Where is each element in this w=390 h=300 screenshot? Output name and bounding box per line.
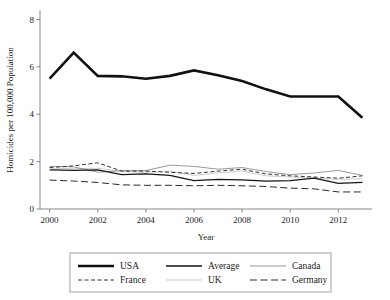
legend-border bbox=[70, 253, 331, 292]
x-tick-label: 2008 bbox=[233, 215, 252, 225]
y-tick-label: 4 bbox=[30, 109, 35, 119]
y-tick-label: 0 bbox=[30, 204, 35, 214]
y-tick-label: 8 bbox=[30, 15, 35, 25]
legend-label-germany: Germany bbox=[292, 275, 328, 285]
y-axis-title: Homicides per 100,000 Population bbox=[5, 47, 15, 173]
legend-label-average: Average bbox=[208, 261, 239, 271]
x-tick-label: 2010 bbox=[281, 215, 300, 225]
x-tick-label: 2002 bbox=[89, 215, 107, 225]
chart-legend: USAAverageCanadaFranceUKGermany bbox=[70, 253, 331, 292]
series-line-germany bbox=[50, 180, 363, 192]
chart-root: 02468 2000200220042006200820102012 Homic… bbox=[0, 0, 390, 300]
y-axis-ticks: 02468 bbox=[30, 15, 41, 215]
x-axis-ticks: 2000200220042006200820102012 bbox=[41, 209, 348, 225]
x-tick-label: 2012 bbox=[329, 215, 347, 225]
legend-item-usa[interactable]: USA bbox=[78, 261, 139, 271]
data-series bbox=[50, 53, 363, 192]
line-chart: 02468 2000200220042006200820102012 Homic… bbox=[0, 0, 390, 300]
legend-label-uk: UK bbox=[208, 275, 222, 285]
legend-item-germany[interactable]: Germany bbox=[250, 275, 328, 285]
x-axis-title: Year bbox=[198, 232, 215, 242]
y-tick-label: 6 bbox=[30, 62, 35, 72]
legend-item-canada[interactable]: Canada bbox=[250, 261, 321, 271]
legend-item-average[interactable]: Average bbox=[166, 261, 239, 271]
legend-item-france[interactable]: France bbox=[78, 275, 146, 285]
legend-label-canada: Canada bbox=[292, 261, 321, 271]
axes bbox=[40, 10, 372, 209]
y-tick-label: 2 bbox=[30, 157, 35, 167]
x-tick-label: 2006 bbox=[185, 215, 204, 225]
legend-item-uk[interactable]: UK bbox=[166, 275, 222, 285]
x-tick-label: 2000 bbox=[41, 215, 60, 225]
legend-label-usa: USA bbox=[120, 261, 139, 271]
plot-area: 02468 2000200220042006200820102012 bbox=[30, 10, 373, 225]
x-tick-label: 2004 bbox=[137, 215, 156, 225]
legend-label-france: France bbox=[120, 275, 146, 285]
series-line-usa bbox=[50, 53, 363, 118]
